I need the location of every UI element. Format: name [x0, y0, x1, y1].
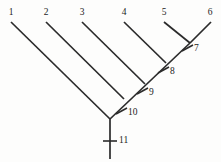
branch-taxon-5 [164, 22, 190, 43]
node-label-7: 7 [194, 44, 199, 54]
taxon-label-1: 1 [4, 8, 18, 18]
node-label-8: 8 [170, 67, 175, 77]
tick-group [103, 45, 193, 141]
branch-group [11, 22, 211, 159]
branch-taxon-4 [124, 22, 166, 63]
node-label-11: 11 [119, 136, 128, 146]
node-label-10: 10 [128, 108, 138, 118]
taxon-label-6: 6 [203, 8, 217, 18]
taxon-label-2: 2 [39, 8, 53, 18]
taxon-label-4: 4 [117, 8, 131, 18]
branch-taxon-6 [190, 22, 211, 43]
branch-taxon-2 [46, 22, 124, 99]
taxon-label-5: 5 [157, 8, 171, 18]
taxon-label-3: 3 [75, 8, 89, 18]
branch-spine-7-to-root [110, 43, 190, 119]
branch-taxon-3 [82, 22, 145, 84]
node-label-9: 9 [149, 88, 154, 98]
cladogram-tree-svg [0, 0, 221, 162]
cladogram-figure: 123456 7891011 [0, 0, 221, 162]
